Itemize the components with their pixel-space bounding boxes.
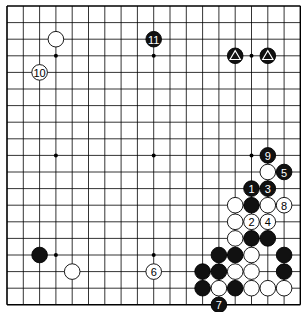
stone-move-10[interactable]: 10 [32, 65, 48, 81]
white-stone-body [227, 264, 243, 280]
white-stone[interactable] [227, 231, 243, 247]
star-point [152, 153, 156, 157]
black-stone[interactable] [32, 247, 48, 263]
stone-move-7[interactable]: 7 [211, 297, 227, 312]
black-stone[interactable] [276, 264, 292, 280]
white-stone-body [260, 164, 276, 180]
white-stone[interactable] [260, 280, 276, 296]
black-stone[interactable] [195, 280, 211, 296]
black-stone-body [211, 247, 227, 263]
stone-move-1[interactable]: 1 [244, 181, 260, 197]
white-stone[interactable] [244, 264, 260, 280]
black-stone-body [227, 247, 243, 263]
white-stone[interactable] [244, 280, 260, 296]
star-point [152, 253, 156, 257]
black-stone-body [276, 264, 292, 280]
star-point [54, 253, 58, 257]
black-stone-body [276, 247, 292, 263]
white-stone[interactable] [260, 164, 276, 180]
black-stone[interactable] [244, 231, 260, 247]
move-number: 1 [248, 183, 254, 195]
white-stone-body [227, 197, 243, 213]
stone-move-2[interactable]: 2 [244, 214, 260, 230]
stone-move-5[interactable]: 5 [276, 164, 292, 180]
stone-move-3[interactable]: 3 [260, 181, 276, 197]
white-stone-body [260, 197, 276, 213]
stone-move-9[interactable]: 9 [260, 148, 276, 164]
white-stone[interactable] [64, 264, 80, 280]
move-number: 6 [151, 266, 157, 278]
white-stone[interactable] [227, 214, 243, 230]
move-number: 3 [265, 183, 271, 195]
star-point [54, 153, 58, 157]
black-stone-body [260, 231, 276, 247]
go-board[interactable]: 1011951382476 [0, 0, 301, 312]
white-stone[interactable] [48, 31, 64, 47]
move-number: 7 [216, 299, 222, 311]
star-point [250, 153, 254, 157]
black-stone[interactable] [195, 264, 211, 280]
move-number: 11 [148, 34, 159, 46]
black-stone-body [244, 231, 260, 247]
star-point [54, 54, 58, 58]
black-stone-body [32, 247, 48, 263]
move-number: 10 [33, 67, 45, 79]
black-stone[interactable] [244, 197, 260, 213]
black-stone[interactable] [276, 247, 292, 263]
move-number: 4 [265, 216, 271, 228]
move-number: 2 [248, 216, 254, 228]
white-stone-body [227, 214, 243, 230]
white-stone[interactable] [227, 264, 243, 280]
black-stone[interactable] [211, 264, 227, 280]
white-stone[interactable] [260, 197, 276, 213]
white-stone-body [211, 280, 227, 296]
black-stone[interactable] [227, 48, 243, 64]
black-stone-body [244, 197, 260, 213]
stone-move-11[interactable]: 11 [146, 31, 162, 47]
white-stone-body [227, 231, 243, 247]
stone-move-6[interactable]: 6 [146, 264, 162, 280]
stone-move-4[interactable]: 4 [260, 214, 276, 230]
white-stone[interactable] [211, 280, 227, 296]
white-stone-body [244, 247, 260, 263]
white-stone-body [64, 264, 80, 280]
black-stone-body [195, 280, 211, 296]
white-stone-body [260, 280, 276, 296]
white-stone-body [276, 280, 292, 296]
black-stone-body [227, 280, 243, 296]
black-stone[interactable] [227, 280, 243, 296]
white-stone[interactable] [244, 247, 260, 263]
white-stone-body [48, 31, 64, 47]
black-stone[interactable] [227, 247, 243, 263]
star-point [250, 54, 254, 58]
star-point [152, 54, 156, 58]
move-number: 9 [265, 150, 271, 162]
black-stone[interactable] [211, 247, 227, 263]
black-stone-body [211, 264, 227, 280]
black-stone-body [195, 264, 211, 280]
black-stone[interactable] [260, 231, 276, 247]
white-stone[interactable] [276, 280, 292, 296]
black-stone[interactable] [260, 48, 276, 64]
white-stone-body [244, 264, 260, 280]
move-number: 8 [281, 200, 287, 212]
stone-move-8[interactable]: 8 [276, 197, 292, 213]
white-stone[interactable] [227, 197, 243, 213]
move-number: 5 [281, 167, 287, 179]
white-stone-body [244, 280, 260, 296]
